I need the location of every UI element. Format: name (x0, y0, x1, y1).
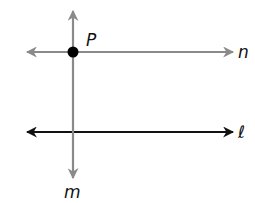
label-line-m: m (64, 182, 81, 202)
label-line-n: n (238, 42, 249, 62)
point-p (68, 47, 79, 58)
label-point-p: P (86, 30, 97, 50)
geometry-diagram: P n ℓ m (0, 0, 255, 203)
label-line-l: ℓ (237, 122, 245, 142)
